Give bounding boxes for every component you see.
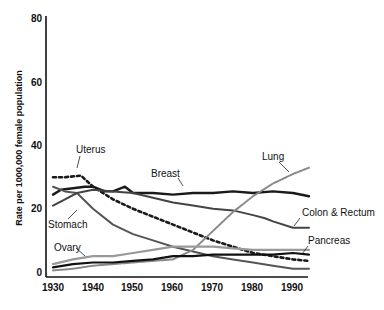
x-tick-1990: 1990 <box>281 282 304 293</box>
series-line-colon-rectum <box>53 190 309 228</box>
y-tick-60: 60 <box>31 77 43 88</box>
x-tick-1930: 1930 <box>42 282 65 293</box>
leader-uterus <box>77 156 80 168</box>
label-colon: Colon & Rectum <box>302 207 375 218</box>
label-ovary: Ovary <box>54 242 81 253</box>
x-tick-1980: 1980 <box>241 282 264 293</box>
series-line-breast <box>53 187 309 197</box>
y-tick-20: 20 <box>31 203 43 214</box>
leader-stomach <box>68 210 77 219</box>
line-chart: 80 60 40 20 0 Rate per 1000,000 female p… <box>0 0 384 310</box>
label-breast: Breast <box>151 168 180 179</box>
x-tick-1970: 1970 <box>201 282 224 293</box>
label-uterus: Uterus <box>76 144 105 155</box>
leader-lung <box>279 162 289 172</box>
leader-breast <box>178 178 183 186</box>
label-stomach: Stomach <box>48 219 87 230</box>
label-pancreas: Pancreas <box>308 235 350 246</box>
x-tick-1960: 1960 <box>161 282 184 293</box>
y-tick-80: 80 <box>31 13 43 24</box>
label-lung: Lung <box>262 151 284 162</box>
y-tick-40: 40 <box>31 140 43 151</box>
x-tick-1950: 1950 <box>121 282 144 293</box>
y-tick-0: 0 <box>36 267 42 278</box>
y-axis-label: Rate per 1000,000 female population <box>14 70 24 226</box>
leader-colon <box>294 218 300 226</box>
x-tick-1940: 1940 <box>82 282 105 293</box>
